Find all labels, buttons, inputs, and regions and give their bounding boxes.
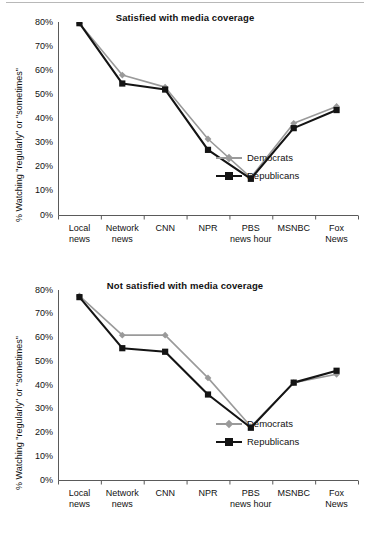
data-point-republicans <box>291 380 297 386</box>
y-axis-tick-label: 70% <box>19 309 53 318</box>
legend-marker-square-icon <box>216 436 242 447</box>
x-axis-tick-label-line2: news <box>88 234 156 245</box>
legend-item-democrats[interactable]: Democrats <box>216 416 299 431</box>
legend-item-democrats[interactable]: Democrats <box>216 150 299 165</box>
y-axis-tick-label: 60% <box>19 333 53 342</box>
x-axis-tick-label-line1: Fox <box>303 223 370 234</box>
x-axis-tick-label-line2: News <box>303 499 370 510</box>
y-axis-tick-label: 50% <box>19 90 53 99</box>
data-point-republicans <box>291 125 297 131</box>
x-axis-tick-label-line2: news <box>88 499 156 510</box>
legend-item-republicans[interactable]: Republicans <box>216 168 299 183</box>
data-point-republicans <box>205 147 211 153</box>
y-axis-tick-label: 60% <box>19 66 53 75</box>
y-axis-tick-label: 20% <box>19 162 53 171</box>
x-axis-tick-label-line2: News <box>303 234 370 245</box>
legend-marker-square-icon <box>216 170 242 181</box>
chart-legend: DemocratsRepublicans <box>216 416 299 452</box>
y-axis-tick-label: 0% <box>19 476 53 485</box>
data-point-republicans <box>76 294 82 300</box>
legend-label: Republicans <box>247 170 299 181</box>
y-axis-tick-label: 40% <box>19 381 53 390</box>
data-point-republicans <box>333 107 339 113</box>
y-axis-tick-label: 10% <box>19 452 53 461</box>
data-point-republicans <box>162 349 168 355</box>
legend-marker-diamond-icon <box>216 418 242 429</box>
chart-legend: DemocratsRepublicans <box>216 150 299 186</box>
y-axis-tick-label: 80% <box>19 18 53 27</box>
y-axis-tick-label: 20% <box>19 428 53 437</box>
y-axis-tick-label: 30% <box>19 404 53 413</box>
legend-item-republicans[interactable]: Republicans <box>216 434 299 449</box>
page-footer-artifact <box>8 526 10 533</box>
x-axis-tick-label: FoxNews <box>303 488 370 509</box>
legend-label: Republicans <box>247 436 299 447</box>
x-axis-tick-label-line2: news hour <box>217 499 285 510</box>
data-point-republicans <box>119 80 125 86</box>
chart-not-satisfied: Not satisfied with media coverage % Watc… <box>0 266 370 533</box>
legend-label: Democrats <box>247 418 293 429</box>
data-point-republicans <box>76 22 82 26</box>
chart-satisfied: Satisfied with media coverage % Watching… <box>0 0 370 266</box>
data-point-republicans <box>162 86 168 92</box>
x-axis-tick-label-line2: news hour <box>217 234 285 245</box>
series-line-democrats <box>79 296 336 427</box>
data-point-republicans <box>333 368 339 374</box>
y-axis-tick-label: 10% <box>19 186 53 195</box>
y-axis-tick-label: 40% <box>19 114 53 123</box>
chart-canvas <box>58 290 360 490</box>
plot-area: 80%70%60%50%40%30%20%10%0%LocalnewsNetwo… <box>58 22 360 225</box>
y-axis-tick-label: 50% <box>19 357 53 366</box>
data-point-republicans <box>119 345 125 351</box>
y-axis-tick-label: 70% <box>19 42 53 51</box>
y-axis-tick-label: 0% <box>19 211 53 220</box>
x-axis-tick-label-line1: Fox <box>303 488 370 499</box>
y-axis-tick-label: 30% <box>19 138 53 147</box>
x-axis-tick-label: FoxNews <box>303 223 370 244</box>
chart-canvas <box>58 22 360 225</box>
data-point-republicans <box>205 391 211 397</box>
y-axis-tick-label: 80% <box>19 286 53 295</box>
series-line-republicans <box>79 297 336 428</box>
figure-page: Satisfied with media coverage % Watching… <box>0 0 370 533</box>
plot-area: 80%70%60%50%40%30%20%10%0%LocalnewsNetwo… <box>58 290 360 490</box>
legend-label: Democrats <box>247 152 293 163</box>
legend-marker-diamond-icon <box>216 152 242 163</box>
